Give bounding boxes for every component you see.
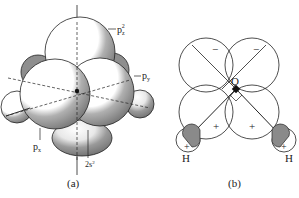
orbital-diagram: pz2 py px 2s2 O − − + + + + H H <box>0 0 299 198</box>
px-label: px <box>33 141 41 153</box>
sign-bottom-left: + <box>213 120 219 132</box>
panel-a-orbital-model: pz2 py px 2s2 <box>1 5 154 175</box>
sign-bottom-right: + <box>249 120 255 132</box>
panel-a-caption: (a) <box>67 177 79 189</box>
py-label: py <box>142 70 150 82</box>
panel-b-water-bonding <box>176 38 296 152</box>
h-label-left: H <box>182 152 190 164</box>
oxygen-label: O <box>231 75 239 87</box>
sign-h-left: + <box>184 141 190 152</box>
2s-label: 2s2 <box>85 160 95 169</box>
px-orbital-lobe <box>20 59 90 129</box>
sign-h-right: + <box>281 141 287 152</box>
panel-b-caption: (b) <box>228 177 241 189</box>
oxygen-nucleus <box>75 89 79 93</box>
sign-top-right: − <box>253 43 259 55</box>
pz-label: pz2 <box>117 23 125 36</box>
sign-top-left: − <box>212 43 218 55</box>
angle-marker <box>230 95 242 101</box>
h-label-right: H <box>285 152 293 164</box>
